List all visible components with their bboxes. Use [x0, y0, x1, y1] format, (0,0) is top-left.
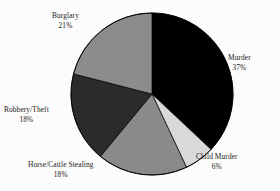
slice-label-child-murder-percent: 6%: [196, 162, 238, 172]
slice-label-child-murder-category: Child Murder: [196, 152, 238, 162]
slice-label-murder: Murder 37%: [228, 53, 251, 72]
slice-label-robbery-theft: Robbery/Theft 18%: [4, 105, 49, 124]
slice-label-burglary-percent: 21%: [52, 21, 79, 31]
slice-label-horse-cattle-stealing: Horse/Cattle Stealing 18%: [28, 160, 94, 179]
slice-label-robbery-theft-percent: 18%: [4, 115, 49, 125]
slice-label-horse-cattle-stealing-category: Horse/Cattle Stealing: [28, 160, 94, 170]
slice-label-robbery-theft-category: Robbery/Theft: [4, 105, 49, 115]
slice-label-horse-cattle-stealing-percent: 18%: [28, 170, 94, 180]
pie-chart: Murder 37% Child Murder 6% Horse/Cattle …: [0, 0, 280, 191]
slice-label-burglary-category: Burglary: [52, 11, 79, 21]
slice-label-murder-percent: 37%: [228, 63, 251, 73]
slice-label-child-murder: Child Murder 6%: [196, 152, 238, 171]
slice-label-burglary: Burglary 21%: [52, 11, 79, 30]
pie-slice-group: [71, 13, 233, 175]
slice-label-murder-category: Murder: [228, 53, 251, 63]
